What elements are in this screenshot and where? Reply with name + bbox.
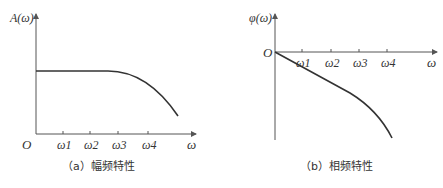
y-axis-label: A(ω) bbox=[9, 11, 34, 25]
figure-canvas: A(ω) O ω1 ω2 ω3 ω4 ω （a）幅频特性 φ(ω) O ω1 ω… bbox=[0, 0, 443, 188]
amplitude-curve bbox=[36, 71, 178, 116]
tick-label-w4: ω4 bbox=[381, 56, 395, 70]
phase-frequency-chart: φ(ω) O ω1 ω2 ω3 ω4 ω （b）相频特性 bbox=[249, 11, 437, 173]
x-axis-label: ω bbox=[187, 137, 196, 152]
tick-label-w1: ω1 bbox=[296, 56, 310, 70]
tick-label-w3: ω3 bbox=[353, 56, 367, 70]
tick-label-w4: ω4 bbox=[142, 138, 156, 152]
tick-label-w3: ω3 bbox=[112, 138, 126, 152]
caption-b: （b）相频特性 bbox=[300, 159, 373, 173]
x-axis-label: ω bbox=[427, 55, 436, 70]
caption-a: （a）幅频特性 bbox=[62, 159, 135, 173]
amplitude-frequency-chart: A(ω) O ω1 ω2 ω3 ω4 ω （a）幅频特性 bbox=[9, 11, 196, 173]
origin-label: O bbox=[22, 137, 32, 152]
y-axis-label: φ(ω) bbox=[249, 11, 272, 25]
tick-label-w1: ω1 bbox=[57, 138, 71, 152]
tick-label-w2: ω2 bbox=[84, 138, 98, 152]
tick-label-w2: ω2 bbox=[325, 56, 339, 70]
origin-label: O bbox=[263, 45, 273, 60]
